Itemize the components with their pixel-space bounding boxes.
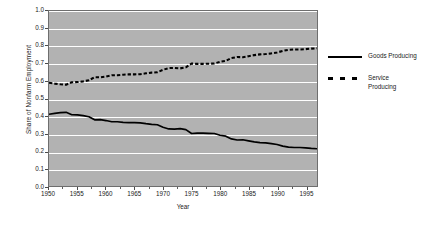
y-tick-label: 0.2 [18, 148, 44, 154]
x-tick-label: 1980 [205, 191, 235, 197]
x-tick-mark-minor [235, 187, 236, 189]
x-tick-label: 1990 [263, 191, 293, 197]
y-tick-label: 0.7 [18, 60, 44, 66]
x-tick-label: 1985 [234, 191, 264, 197]
y-tick-label: 0.5 [18, 95, 44, 101]
x-tick-mark-minor [91, 187, 92, 189]
legend-label: Goods Producing [368, 52, 423, 61]
y-tick-label: 0.1 [18, 166, 44, 172]
plot-area [48, 10, 318, 187]
chart-container: Share of Nonfarm Employment 0.00.10.20.3… [0, 0, 423, 228]
chart-legend: Goods ProducingServiceProducing [328, 52, 423, 96]
x-tick-mark-minor [206, 187, 207, 189]
legend-label: ServiceProducing [368, 74, 423, 91]
series-line-goods-producing [49, 112, 317, 148]
series-layer [49, 11, 317, 186]
x-axis-title: Year [148, 203, 218, 210]
x-tick-label: 1965 [119, 191, 149, 197]
legend-item[interactable]: ServiceProducing [328, 74, 423, 96]
y-tick-label: 0.9 [18, 25, 44, 31]
x-tick-label: 1960 [90, 191, 120, 197]
x-tick-label: 1995 [292, 191, 322, 197]
y-tick-label: 0.8 [18, 42, 44, 48]
x-tick-label: 1975 [177, 191, 207, 197]
y-tick-label: 0.3 [18, 131, 44, 137]
y-tick-label: 1.0 [18, 7, 44, 13]
y-tick-label: 0.4 [18, 113, 44, 119]
x-tick-mark-minor [62, 187, 63, 189]
legend-swatch-dashed-icon [328, 77, 362, 80]
x-tick-mark-minor [292, 187, 293, 189]
x-tick-mark-minor [120, 187, 121, 189]
y-tick-label: 0.6 [18, 78, 44, 84]
legend-swatch-solid-icon [328, 56, 362, 58]
x-tick-label: 1955 [62, 191, 92, 197]
x-tick-mark-minor [177, 187, 178, 189]
series-line-service-producing [49, 48, 317, 84]
legend-item[interactable]: Goods Producing [328, 52, 423, 74]
x-tick-label: 1970 [148, 191, 178, 197]
x-tick-label: 1950 [33, 191, 63, 197]
x-tick-mark-minor [149, 187, 150, 189]
x-tick-mark-minor [263, 187, 264, 189]
